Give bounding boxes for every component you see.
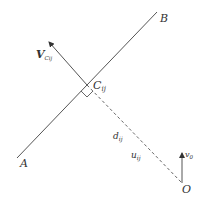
right-angle-marker bbox=[81, 91, 93, 97]
label-d-ij: dij bbox=[113, 131, 123, 143]
label-a: A bbox=[19, 157, 28, 170]
perpendicular-dashed-line bbox=[87, 85, 181, 182]
label-v-0: v0 bbox=[185, 150, 194, 160]
label-o: O bbox=[182, 183, 191, 196]
geometry-diagram: A B Cij VCij dij uij v0 O bbox=[0, 0, 204, 205]
label-v-c: VCij bbox=[36, 48, 53, 62]
label-u-ij: uij bbox=[131, 150, 141, 162]
label-b: B bbox=[159, 12, 168, 25]
label-c-ij: Cij bbox=[93, 79, 107, 93]
velocity-vector-c bbox=[49, 42, 87, 85]
